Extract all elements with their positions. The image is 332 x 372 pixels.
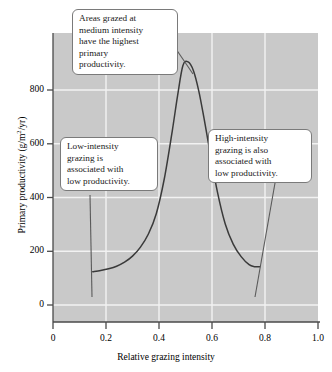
x-tick-label-1-0: 1.0 (303, 333, 332, 343)
peak-callout-line-3: have the highest (79, 36, 172, 48)
peak-callout-line-2: medium intensity (79, 25, 172, 37)
y-axis-label-suffix: /yr) (17, 117, 27, 131)
x-tick-label-0-6: 0.6 (197, 333, 227, 343)
y-axis-label-exponent: 2 (15, 130, 22, 133)
high-intensity-callout-line-2: grazing is also (215, 145, 306, 157)
low-intensity-callout-line-2: grazing is (67, 153, 152, 165)
peak-callout-line-5: productivity. (79, 59, 172, 71)
x-tick-marks (53, 322, 318, 329)
low-intensity-callout-line-1: Low-intensity (67, 141, 152, 153)
low-intensity-callout-line-3: associated with (67, 164, 152, 176)
peak-callout-line-1: Areas grazed at (79, 13, 172, 25)
x-tick-label-0-8: 0.8 (250, 333, 280, 343)
x-tick-label-0: 0 (38, 333, 68, 343)
x-tick-label-0-2: 0.2 (91, 333, 121, 343)
y-tick-marks (47, 90, 53, 305)
high-intensity-callout-line-4: low productivity. (215, 168, 306, 180)
y-tick-label-800: 800 (16, 84, 44, 94)
high-intensity-callout: High-intensity grazing is also associate… (208, 129, 312, 183)
low-intensity-callout-line-4: low productivity. (67, 176, 152, 188)
peak-callout-line-4: primary (79, 48, 172, 60)
low-intensity-callout: Low-intensity grazing is associated with… (60, 137, 158, 191)
x-axis-label: Relative grazing intensity (0, 352, 332, 362)
x-tick-label-0-4: 0.4 (144, 333, 174, 343)
high-intensity-callout-line-1: High-intensity (215, 133, 306, 145)
high-intensity-callout-line-3: associated with (215, 156, 306, 168)
peak-callout: Areas grazed at medium intensity have th… (72, 9, 178, 75)
y-axis-label: Primary productivity (g/m2/yr) (17, 95, 27, 255)
y-tick-label-0: 0 (16, 299, 44, 309)
chart-figure: Areas grazed at medium intensity have th… (0, 0, 332, 372)
y-axis-label-prefix: Primary productivity (g/m (17, 134, 27, 234)
